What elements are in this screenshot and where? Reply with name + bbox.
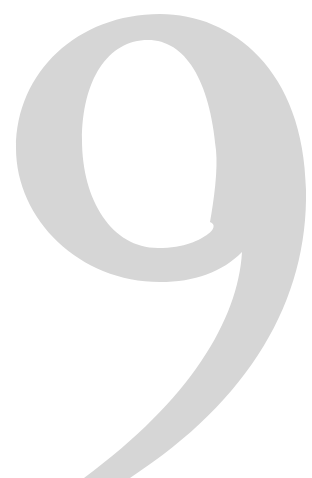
nine-glyph-shape — [16, 14, 306, 478]
numeral-nine-graphic: 9 — [0, 0, 312, 478]
nine-glyph-svg — [0, 0, 312, 478]
